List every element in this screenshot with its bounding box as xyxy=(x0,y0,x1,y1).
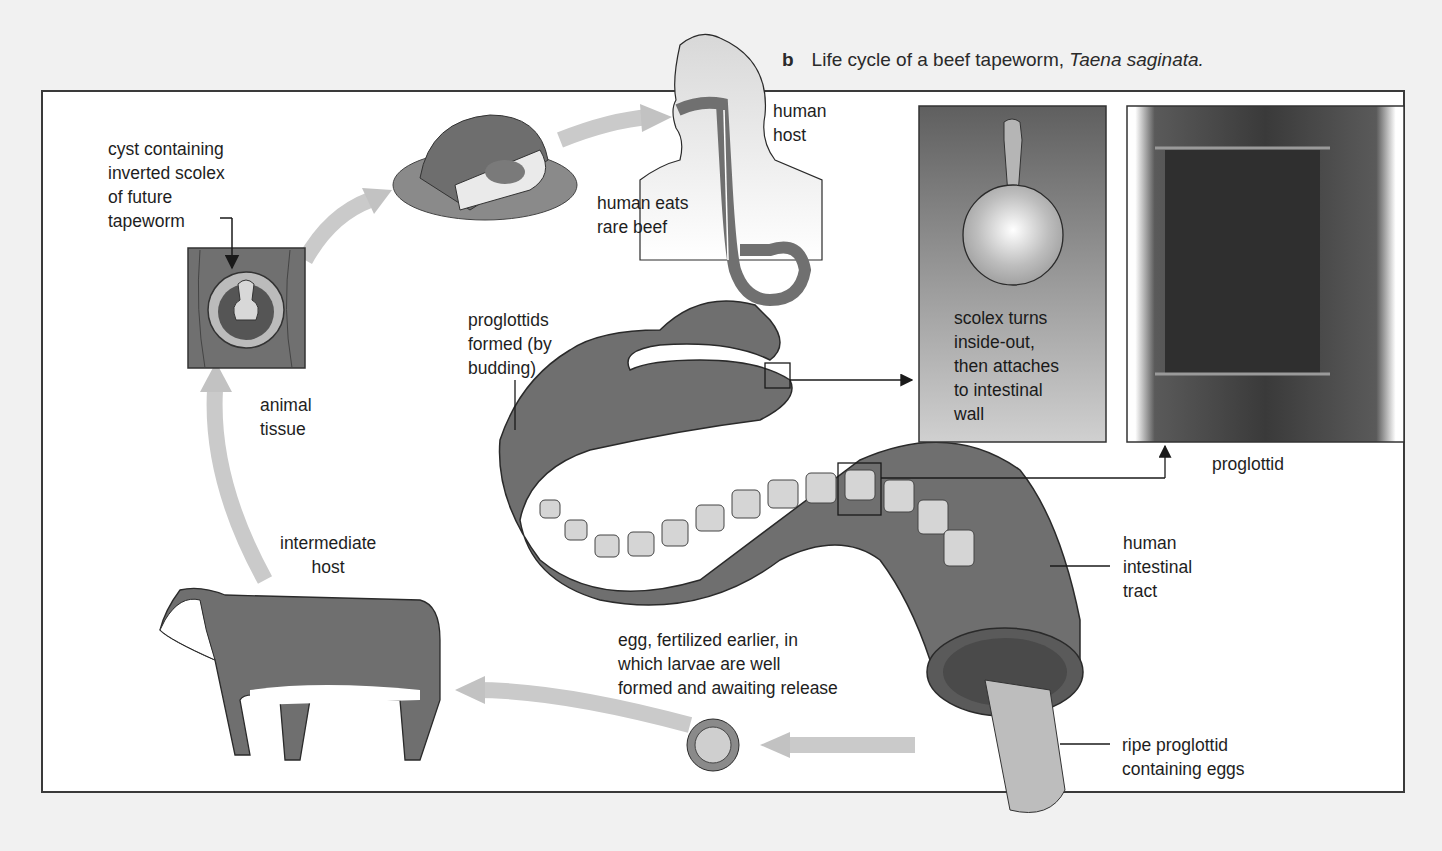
label-scolex-turns: scolex turns inside-out, then attaches t… xyxy=(954,306,1059,426)
egg-illustration xyxy=(687,719,739,771)
label-proglottid: proglottid xyxy=(1212,452,1284,476)
label-human-intestinal-tract: human intestinal tract xyxy=(1123,531,1192,603)
cow-illustration xyxy=(160,588,440,760)
beef-illustration xyxy=(393,115,577,220)
proglottid-photo-panel xyxy=(1127,106,1404,442)
human-silhouette xyxy=(640,34,822,300)
label-intermediate-host: intermediate host xyxy=(280,531,376,579)
label-egg: egg, fertilized earlier, in which larvae… xyxy=(618,628,838,700)
label-ripe-proglottid: ripe proglottid containing eggs xyxy=(1122,733,1245,781)
label-cyst: cyst containing inverted scolex of futur… xyxy=(108,137,225,233)
label-proglottids-formed: proglottids formed (by budding) xyxy=(468,308,552,380)
diagram-artwork xyxy=(0,0,1442,851)
cyst-illustration xyxy=(188,218,305,368)
label-animal-tissue: animal tissue xyxy=(260,393,312,441)
label-human-eats: human eats rare beef xyxy=(597,191,688,239)
label-human-host: human host xyxy=(773,99,827,147)
